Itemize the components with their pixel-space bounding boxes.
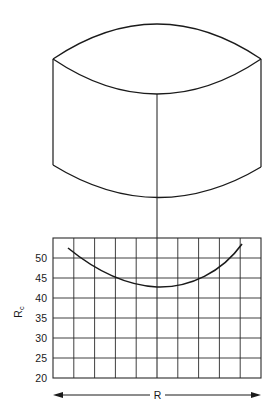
tick-20: 20: [35, 372, 47, 384]
cylinder-top-front-arc: [53, 59, 261, 94]
y-axis-label: Rc: [12, 306, 26, 318]
tick-50: 50: [35, 252, 47, 264]
svg-text:Rc: Rc: [12, 306, 26, 318]
cylinder-top-back-arc: [53, 24, 261, 59]
arrow-left-icon: [53, 392, 63, 398]
x-axis-arrow: R: [53, 389, 261, 401]
x-axis-label: R: [154, 389, 162, 401]
arrow-right-icon: [251, 392, 261, 398]
tick-25: 25: [35, 352, 47, 364]
tick-40: 40: [35, 292, 47, 304]
tick-30: 30: [35, 332, 47, 344]
tick-35: 35: [35, 312, 47, 324]
tick-45: 45: [35, 272, 47, 284]
cylinder-section-drawing: [53, 24, 261, 378]
hardness-curve: [68, 244, 242, 287]
y-axis-ticks: 50 45 40 35 30 25 20: [35, 252, 47, 384]
hardness-diagram: 50 45 40 35 30 25 20 Rc R: [0, 0, 279, 419]
